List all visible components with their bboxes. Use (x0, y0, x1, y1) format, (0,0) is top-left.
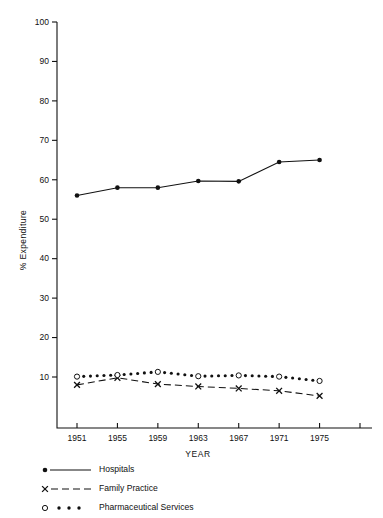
y-tick-label: 90 (40, 56, 50, 66)
axis-lines (57, 22, 372, 428)
series-dot (210, 374, 213, 377)
x-tick-label: 1971 (270, 433, 289, 443)
series-dot (291, 377, 294, 380)
series-dot (244, 374, 247, 377)
x-tick-label: 1955 (108, 433, 127, 443)
x-axis-title: YEAR (185, 449, 211, 459)
series-dot (311, 379, 314, 382)
y-tick-label: 40 (40, 253, 50, 263)
y-axis-title: % Expenditure (18, 210, 28, 270)
series-dot (298, 377, 301, 380)
legend-dot (77, 506, 80, 509)
series-dot (170, 372, 173, 375)
series-dot (257, 374, 260, 377)
data-point (115, 185, 120, 190)
series-dot (109, 374, 112, 377)
y-tick-label: 70 (40, 135, 50, 145)
x-tick-label: 1967 (229, 433, 248, 443)
series-dot (264, 375, 267, 378)
y-tick-label: 20 (40, 332, 50, 342)
legend-marker-filled-circle (43, 468, 48, 473)
series-line (77, 160, 320, 196)
data-point (196, 374, 201, 379)
series-dot (217, 374, 220, 377)
y-tick-label: 100 (35, 17, 49, 27)
y-tick-label: 50 (40, 214, 50, 224)
series-hospitals (75, 158, 322, 198)
series-dot (102, 374, 105, 377)
y-tick-label: 60 (40, 175, 50, 185)
axis-group (57, 22, 372, 428)
legend-marker-open-circle (42, 505, 47, 510)
data-point (75, 193, 80, 198)
x-tick-label: 1963 (189, 433, 208, 443)
y-tick-label: 80 (40, 96, 50, 106)
legend-item: Pharmaceutical Services (42, 502, 193, 512)
legend-label: Hospitals (99, 464, 134, 474)
series-dot (224, 374, 227, 377)
data-point (155, 369, 160, 374)
x-tick-group: 1951195519591963196719711975 (68, 423, 360, 443)
legend-dot (57, 506, 60, 509)
series-dot (230, 374, 233, 377)
data-point (156, 185, 161, 190)
series-dot (82, 375, 85, 378)
series-dot (305, 378, 308, 381)
data-point (74, 374, 79, 379)
data-point (236, 373, 241, 378)
series-dot (129, 372, 132, 375)
data-point (236, 179, 241, 184)
series-dot (203, 375, 206, 378)
series-dot (143, 371, 146, 374)
series-dot (163, 371, 166, 374)
x-tick-label: 1951 (68, 433, 87, 443)
series-dot (150, 371, 153, 374)
series-pharmaceutical-services (74, 369, 322, 383)
series-dot (96, 374, 99, 377)
legend-item: Family Practice (42, 483, 158, 493)
series-dot (123, 373, 126, 376)
series-dot (251, 374, 254, 377)
legend-item: Hospitals (43, 464, 135, 474)
legend-marker-x (42, 486, 48, 492)
data-point (196, 179, 201, 184)
data-point (317, 158, 322, 163)
y-tick-group: 100908070605040302010 (35, 17, 57, 382)
chart-legend: HospitalsFamily PracticePharmaceutical S… (42, 464, 193, 512)
y-tick-label: 10 (40, 372, 50, 382)
data-point (277, 374, 282, 379)
x-tick-label: 1959 (148, 433, 167, 443)
data-point (317, 378, 322, 383)
series-dot (271, 375, 274, 378)
series-dot (136, 372, 139, 375)
legend-label: Pharmaceutical Services (99, 502, 194, 512)
data-point (115, 372, 120, 377)
data-series-group (74, 158, 322, 399)
x-tick-label: 1975 (310, 433, 329, 443)
expenditure-line-chart: % Expenditure YEAR 100908070605040302010… (0, 0, 383, 518)
legend-label: Family Practice (99, 483, 158, 493)
series-dot (190, 374, 193, 377)
data-point (277, 160, 282, 165)
legend-dot (67, 506, 70, 509)
chart-figure: % Expenditure YEAR 100908070605040302010… (0, 0, 383, 518)
series-dot (177, 372, 180, 375)
series-dot (183, 373, 186, 376)
series-dot (284, 376, 287, 379)
series-dot (89, 375, 92, 378)
y-tick-label: 30 (40, 293, 50, 303)
